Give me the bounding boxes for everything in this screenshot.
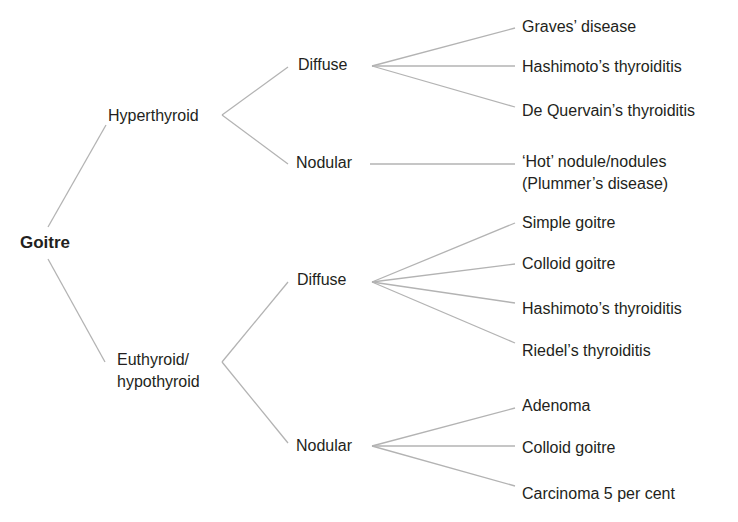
- leaf-graves-disease: Graves’ disease: [522, 15, 636, 38]
- edge-ed-riedel: [372, 282, 515, 343]
- node-eu-nodular: Nodular: [296, 434, 352, 457]
- leaf-colloid-goitre-diffuse: Colloid goitre: [522, 252, 615, 275]
- edge-goitre-hyper: [48, 125, 106, 227]
- edge-en-carcinoma: [372, 446, 515, 486]
- node-hyperthyroid: Hyperthyroid: [108, 104, 199, 127]
- connector-lines: [0, 0, 738, 522]
- leaf-adenoma: Adenoma: [522, 394, 591, 417]
- leaf-hot-nodule-line1: ‘Hot’ nodule/nodules: [522, 151, 668, 173]
- edge-goitre-euthyroid: [48, 259, 105, 362]
- node-euthyroid-line1: Euthyroid/: [117, 349, 200, 371]
- leaf-carcinoma: Carcinoma 5 per cent: [522, 482, 675, 505]
- edge-en-adenoma: [372, 408, 515, 446]
- edge-hd-dequervain: [372, 66, 515, 107]
- edge-eu-nodular: [222, 362, 288, 443]
- edge-hd-graves: [372, 28, 515, 66]
- edge-ed-hashimoto: [372, 282, 515, 303]
- node-eu-diffuse: Diffuse: [297, 268, 347, 291]
- node-goitre: Goitre: [20, 231, 70, 254]
- edge-hyper-nodular: [222, 115, 288, 164]
- edge-eu-diffuse: [222, 282, 288, 362]
- node-hyper-nodular: Nodular: [296, 151, 352, 174]
- leaf-simple-goitre: Simple goitre: [522, 211, 615, 234]
- leaf-de-quervain: De Quervain’s thyroiditis: [522, 99, 695, 122]
- edge-hyper-diffuse: [222, 67, 288, 115]
- node-euthyroid-line2: hypothyroid: [117, 371, 200, 393]
- leaf-hashimoto-eu: Hashimoto’s thyroiditis: [522, 297, 682, 320]
- node-hyper-diffuse: Diffuse: [298, 53, 348, 76]
- leaf-hot-nodule-line2: (Plummer’s disease): [522, 173, 668, 195]
- leaf-riedel: Riedel’s thyroiditis: [522, 339, 651, 362]
- node-euthyroid-hypothyroid: Euthyroid/ hypothyroid: [117, 349, 200, 393]
- leaf-hashimoto-hyper: Hashimoto’s thyroiditis: [522, 55, 682, 78]
- leaf-colloid-goitre-nodular: Colloid goitre: [522, 436, 615, 459]
- leaf-hot-nodule: ‘Hot’ nodule/nodules (Plummer’s disease): [522, 151, 668, 195]
